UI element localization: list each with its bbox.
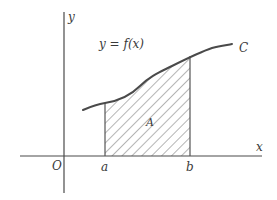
lower-bound-label: a [101,160,108,174]
function-label: y = f(x) [98,37,144,51]
shaded-area-region [105,56,190,156]
origin-label: O [52,159,62,173]
x-axis-label: x [256,140,263,154]
upper-bound-label: b [186,160,194,174]
area-under-curve-diagram: y x O a b y = f(x) C A [0,0,277,200]
y-axis-label: y [67,10,75,24]
area-label: A [145,116,154,129]
curve-label: C [239,41,248,55]
